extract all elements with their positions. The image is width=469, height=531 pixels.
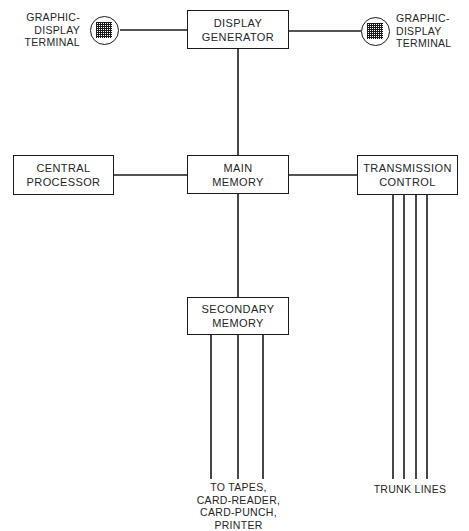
graphic-display-terminal-right-label: GRAPHIC- DISPLAY TERMINAL xyxy=(396,12,466,50)
transmission-control-label-line-1: TRANSMISSION xyxy=(363,161,452,175)
main-memory-label-line-2: MEMORY xyxy=(212,175,264,189)
display-generator-label-line-2: GENERATOR xyxy=(202,30,274,44)
trunk-lines-caption: TRUNK LINES xyxy=(355,483,465,496)
terminal-right-label-line-1: GRAPHIC- xyxy=(396,12,466,25)
terminal-right-label-line-3: TERMINAL xyxy=(396,37,466,50)
transmission-control-label-line-2: CONTROL xyxy=(379,175,436,189)
central-processor-label-line-1: CENTRAL xyxy=(36,161,90,175)
diagram-canvas: GRAPHIC- DISPLAY TERMINAL DISPLAY GENERA… xyxy=(0,0,469,531)
central-processor-label-line-2: PROCESSOR xyxy=(27,175,101,189)
node-display-generator[interactable]: DISPLAY GENERATOR xyxy=(187,10,289,49)
secondary-memory-label-line-1: SECONDARY xyxy=(201,302,274,316)
node-secondary-memory[interactable]: SECONDARY MEMORY xyxy=(187,297,289,335)
crt-grid-icon[interactable] xyxy=(90,16,119,45)
terminal-right-label-line-2: DISPLAY xyxy=(396,25,466,38)
node-central-processor[interactable]: CENTRAL PROCESSOR xyxy=(13,155,114,195)
diagram-connectors xyxy=(0,0,469,531)
trunk-lines-caption-line-1: TRUNK LINES xyxy=(355,483,465,496)
peripherals-caption-line-1: TO TAPES, xyxy=(168,481,309,494)
peripherals-caption-line-2: CARD-READER, xyxy=(168,494,309,507)
peripherals-caption-line-4: PRINTER xyxy=(168,519,309,531)
display-generator-label-line-1: DISPLAY xyxy=(214,16,262,30)
node-transmission-control[interactable]: TRANSMISSION CONTROL xyxy=(357,155,458,195)
graphic-display-terminal-left-label: GRAPHIC- DISPLAY TERMINAL xyxy=(14,11,80,49)
node-main-memory[interactable]: MAIN MEMORY xyxy=(187,155,289,194)
peripherals-caption-line-3: CARD-PUNCH, xyxy=(168,506,309,519)
crt-grid-icon-right[interactable] xyxy=(361,17,390,46)
crt-screen-grid-icon xyxy=(96,22,112,38)
main-memory-label-line-1: MAIN xyxy=(223,161,252,175)
secondary-memory-label-line-2: MEMORY xyxy=(212,316,264,330)
terminal-left-label-line-3: TERMINAL xyxy=(14,36,80,49)
terminal-left-label-line-2: DISPLAY xyxy=(14,24,80,37)
peripherals-caption: TO TAPES, CARD-READER, CARD-PUNCH, PRINT… xyxy=(168,481,309,531)
terminal-left-label-line-1: GRAPHIC- xyxy=(14,11,80,24)
crt-screen-grid-icon-right xyxy=(367,23,383,39)
